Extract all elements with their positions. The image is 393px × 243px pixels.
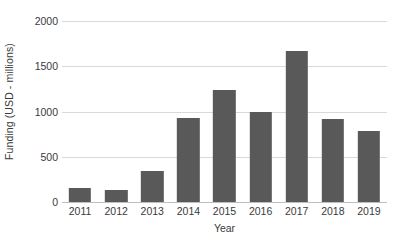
x-axis-title: Year [62, 222, 387, 234]
y-tick-label: 0 [18, 196, 58, 208]
x-tick-label: 2019 [351, 205, 387, 217]
bar[interactable] [105, 190, 127, 202]
bar[interactable] [141, 171, 163, 202]
x-tick-label: 2014 [170, 205, 206, 217]
y-tick-label: 2000 [18, 15, 58, 27]
bars-layer [62, 21, 387, 202]
x-axis-tick-labels: 201120122013201420152016201720182019 [62, 205, 387, 221]
bar[interactable] [177, 118, 199, 202]
bar[interactable] [69, 188, 91, 202]
bar-slot [315, 21, 351, 202]
bar-slot [170, 21, 206, 202]
x-tick-label: 2016 [243, 205, 279, 217]
x-tick-label: 2013 [134, 205, 170, 217]
bar-slot [62, 21, 98, 202]
bar-chart-figure: Funding (USD - millions) 050010001500200… [0, 0, 393, 243]
y-tick-label: 1500 [18, 60, 58, 72]
x-tick-label: 2011 [62, 205, 98, 217]
bar-slot [243, 21, 279, 202]
x-tick-label: 2018 [315, 205, 351, 217]
bar-slot [98, 21, 134, 202]
x-tick-label: 2017 [279, 205, 315, 217]
y-tick-label: 500 [18, 151, 58, 163]
bar-slot [134, 21, 170, 202]
bar[interactable] [286, 51, 308, 202]
bar-slot [351, 21, 387, 202]
bar-slot [206, 21, 242, 202]
x-tick-label: 2015 [206, 205, 242, 217]
y-axis-title: Funding (USD - millions) [0, 0, 18, 203]
y-tick-label: 1000 [18, 106, 58, 118]
y-axis-tick-labels: 0500100015002000 [18, 0, 58, 243]
x-tick-label: 2012 [98, 205, 134, 217]
bar-slot [279, 21, 315, 202]
bar[interactable] [358, 131, 380, 202]
bar[interactable] [322, 119, 344, 202]
x-axis-line [62, 202, 387, 203]
bar[interactable] [213, 90, 235, 202]
bar[interactable] [249, 112, 271, 202]
